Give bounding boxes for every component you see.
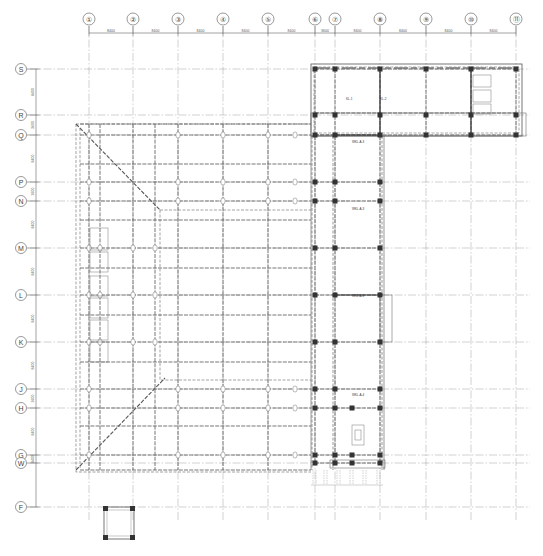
column-axes: ①②③④⑤⑥⑦⑧⑨⑩⑪	[83, 13, 522, 520]
svg-text:⑥: ⑥	[312, 16, 318, 23]
row-axis-bubble: R	[16, 110, 27, 121]
column	[221, 198, 225, 204]
column	[333, 246, 338, 251]
row-axis-bubble: Q	[16, 130, 27, 141]
column	[313, 387, 318, 392]
dimension-label: 8400	[354, 29, 362, 33]
column	[378, 67, 383, 72]
svg-text:S: S	[19, 66, 24, 73]
dimension-label: 8400	[107, 29, 115, 33]
beam-tag: KL-2	[380, 97, 387, 101]
beam-tag: KL-1	[346, 97, 353, 101]
column	[176, 386, 180, 392]
column	[378, 387, 383, 392]
column-axis-bubble: ⑦	[329, 13, 341, 25]
column	[87, 179, 91, 185]
column	[378, 199, 383, 204]
row-axis-bubble: S	[16, 64, 27, 75]
row-axis-bubble: J	[16, 384, 27, 395]
column	[333, 113, 338, 118]
dimension-label: 8400	[31, 428, 35, 436]
svg-text:⑩: ⑩	[468, 16, 474, 23]
north-wing-outline	[311, 64, 526, 136]
dimension-label: 3600	[31, 395, 35, 403]
row-axis-bubble: M	[16, 243, 27, 254]
column	[153, 292, 157, 298]
structural-plan-drawing: ①②③④⑤⑥⑦⑧⑨⑩⑪ SRQPNMLKJHGWF 84008400840084…	[0, 0, 543, 556]
column	[131, 339, 135, 345]
column	[333, 453, 338, 458]
beam-tag: WKL-A-4	[352, 393, 365, 397]
column	[266, 386, 270, 392]
svg-text:⑧: ⑧	[377, 16, 383, 23]
column	[176, 132, 180, 138]
column	[266, 179, 270, 185]
column	[333, 133, 338, 138]
svg-text:②: ②	[130, 16, 136, 23]
column	[293, 198, 297, 204]
dimension-label: 8400	[242, 29, 250, 33]
dimension-label: 8400	[490, 29, 498, 33]
column	[87, 405, 91, 411]
column	[176, 179, 180, 185]
column	[469, 67, 474, 72]
beam-tag: WKL-A-3	[352, 294, 365, 298]
svg-text:⑤: ⑤	[265, 16, 271, 23]
svg-text:⑦: ⑦	[332, 16, 338, 23]
column	[469, 133, 474, 138]
column-axis-bubble: ②	[127, 13, 139, 25]
column	[176, 405, 180, 411]
svg-text:L: L	[19, 292, 23, 299]
column	[293, 132, 297, 138]
column	[313, 293, 318, 298]
left-dimension-labels: 8400360084003600840084008400840036008400…	[31, 88, 35, 463]
dimension-label: 8400	[31, 155, 35, 163]
stair-details	[90, 75, 491, 445]
dimension-label: 8400	[197, 29, 205, 33]
column	[350, 406, 355, 411]
column	[266, 132, 270, 138]
column	[313, 199, 318, 204]
column	[293, 405, 297, 411]
column	[313, 67, 318, 72]
column	[313, 180, 318, 185]
column	[131, 245, 135, 251]
row-axis-bubble: N	[16, 196, 27, 207]
column	[313, 340, 318, 345]
column	[176, 198, 180, 204]
dimension-label: 8400	[31, 315, 35, 323]
column	[313, 461, 318, 466]
column	[87, 198, 91, 204]
svg-text:W: W	[18, 460, 25, 467]
dimension-label: 8400	[31, 362, 35, 370]
column-axis-bubble: ⑥	[309, 13, 321, 25]
svg-text:⑨: ⑨	[423, 16, 429, 23]
column	[514, 113, 519, 118]
column	[333, 293, 338, 298]
column-axis-bubble: ⑧	[374, 13, 386, 25]
column	[333, 406, 338, 411]
column	[293, 386, 297, 392]
svg-text:③: ③	[175, 16, 181, 23]
row-axis-bubble: L	[16, 290, 27, 301]
column	[378, 180, 383, 185]
column	[313, 246, 318, 251]
dimension-label: 8400	[445, 29, 453, 33]
column	[313, 406, 318, 411]
column	[350, 461, 355, 466]
svg-text:K: K	[19, 339, 24, 346]
column-axis-bubble: ⑪	[510, 13, 522, 25]
column	[313, 113, 318, 118]
column-axis-bubble: ③	[172, 13, 184, 25]
column	[98, 292, 102, 298]
column	[176, 452, 180, 458]
dimension-label: 8400	[288, 29, 296, 33]
column	[87, 452, 91, 458]
pile-marks	[311, 470, 383, 485]
row-axis-bubble: P	[16, 177, 27, 188]
column	[87, 386, 91, 392]
row-axes: SRQPNMLKJHGWF	[16, 64, 531, 513]
svg-text:P: P	[19, 179, 24, 186]
column	[424, 67, 429, 72]
column	[221, 405, 225, 411]
